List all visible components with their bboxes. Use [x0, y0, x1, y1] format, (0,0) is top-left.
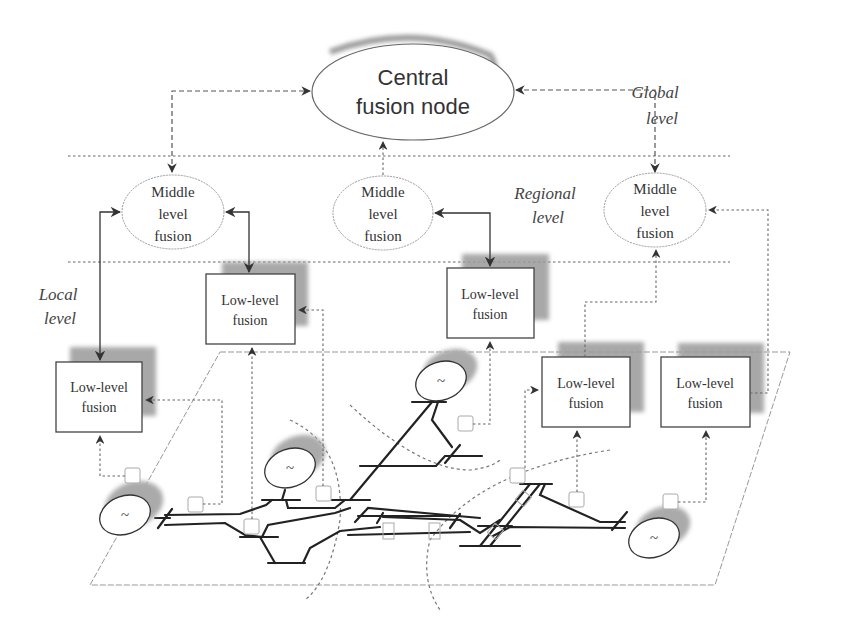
svg-text:fusion: fusion: [233, 313, 268, 328]
svg-text:Low-level: Low-level: [70, 380, 128, 395]
local-level-label-1: Local: [38, 285, 78, 304]
fusion-architecture-diagram: Central fusion node Global level Regiona…: [0, 0, 841, 626]
svg-text:level: level: [640, 203, 669, 219]
regional-level-label-1: Regional: [513, 184, 576, 203]
svg-text:Middle: Middle: [361, 184, 405, 200]
svg-text:Low-level: Low-level: [676, 376, 734, 391]
regional-level-label-2: level: [532, 208, 564, 227]
central-fusion-node: Central fusion node: [312, 38, 514, 140]
svg-text:fusion: fusion: [688, 396, 723, 411]
svg-text:fusion: fusion: [636, 225, 674, 241]
low-fusion-node-5: Low-level fusion: [661, 343, 764, 427]
svg-text:level: level: [368, 206, 397, 222]
svg-text:~: ~: [121, 507, 129, 523]
low-fusion-node-2: Low-level fusion: [206, 262, 308, 344]
svg-text:level: level: [158, 206, 187, 222]
svg-text:Middle: Middle: [633, 181, 677, 197]
link-low4-middle3: [585, 250, 656, 357]
svg-text:fusion: fusion: [569, 396, 604, 411]
region-boundary-2: [350, 405, 500, 470]
local-level-label-2: level: [44, 309, 76, 328]
svg-text:Low-level: Low-level: [221, 293, 279, 308]
svg-text:Low-level: Low-level: [557, 376, 615, 391]
svg-text:fusion: fusion: [364, 228, 402, 244]
svg-text:~: ~: [437, 373, 445, 389]
central-node-label-2: fusion node: [356, 94, 470, 119]
low-fusion-node-4: Low-level fusion: [542, 342, 644, 427]
svg-text:fusion: fusion: [82, 400, 117, 415]
generator-2: ~: [259, 428, 331, 495]
global-level-label-2: level: [646, 109, 678, 128]
link-central-middle-3: [516, 90, 655, 172]
middle-fusion-node-2: Middle level fusion: [333, 176, 433, 250]
svg-text:Low-level: Low-level: [461, 287, 519, 302]
svg-text:fusion: fusion: [154, 228, 192, 244]
low-fusion-node-3: Low-level fusion: [447, 254, 549, 338]
central-node-label-1: Central: [378, 65, 449, 90]
svg-text:fusion: fusion: [473, 307, 508, 322]
link-middle1-low1: [100, 212, 120, 360]
svg-text:~: ~: [286, 460, 294, 476]
middle-fusion-node-1: Middle level fusion: [122, 175, 224, 249]
generator-4: ~: [623, 499, 696, 565]
link-central-middle-1: [172, 91, 310, 172]
svg-text:Middle: Middle: [151, 184, 195, 200]
middle-fusion-node-3: Middle level fusion: [604, 173, 706, 247]
low-fusion-node-1: Low-level fusion: [56, 347, 156, 432]
svg-text:~: ~: [650, 530, 658, 546]
